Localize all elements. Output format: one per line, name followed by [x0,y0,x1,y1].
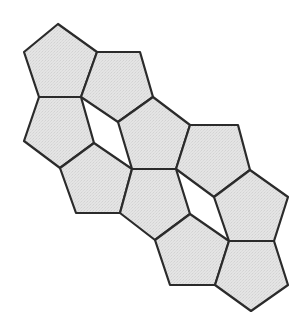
pentagon-tiling-diagram [0,0,306,332]
